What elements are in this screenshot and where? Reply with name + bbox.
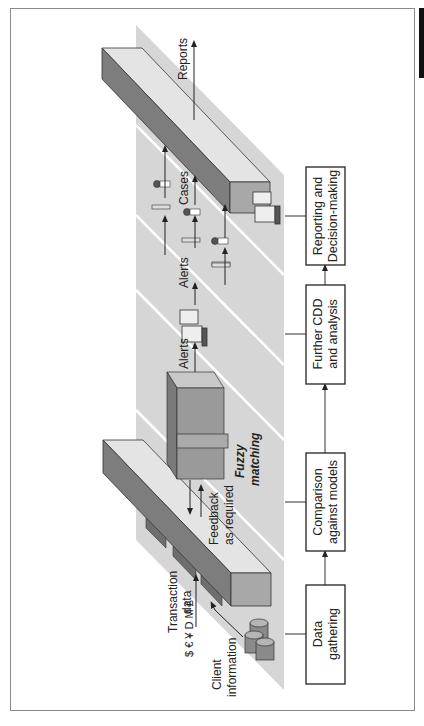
step-label-line1: Further CDD	[311, 299, 325, 370]
process-step-reporting: Reporting and Decision-making	[306, 167, 345, 265]
step-label-line2: Decision-making	[326, 170, 340, 262]
feedback-label-2: as required	[222, 485, 236, 545]
process-step-data-gathering: Data gathering	[306, 585, 345, 684]
step-label-line2: gathering	[326, 608, 340, 660]
feedback-label-1: Feedback	[207, 491, 221, 545]
client-info-label-1: Client	[210, 659, 224, 690]
fuzzy-matching-block	[167, 372, 228, 479]
step-label-line1: Reporting and	[311, 177, 325, 256]
step-label-line2: and analysis	[326, 299, 340, 369]
reports-label: Reports	[176, 38, 190, 80]
client-info-label-2: information	[225, 638, 239, 697]
band-connectors	[285, 216, 306, 634]
currency-symbols-label: $ € ¥ D M £	[183, 600, 195, 657]
alerts-label-2: Alerts	[177, 257, 191, 288]
fuzzy-matching-label-1: Fuzzy	[233, 443, 247, 478]
fuzzy-matching-label-2: matching	[248, 432, 262, 486]
step-label-line1: Data	[311, 621, 325, 647]
step-label-line1: Comparison	[311, 468, 325, 535]
process-step-comparison: Comparison against models	[306, 453, 345, 551]
cases-label: Cases	[177, 171, 191, 205]
step-label-line2: against models	[326, 460, 340, 544]
alerts-label-1: Alerts	[177, 338, 191, 369]
transaction-label-1: Transaction	[166, 571, 180, 633]
process-step-further-cdd: Further CDD and analysis	[306, 285, 345, 384]
